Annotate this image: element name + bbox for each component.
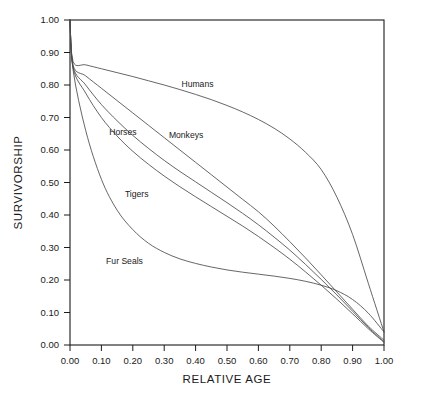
y-tick-label: 0.40 (41, 209, 60, 220)
curve-label-tigers: Tigers (125, 189, 149, 199)
y-tick-label: 0.00 (41, 339, 60, 350)
y-tick-label: 0.70 (41, 112, 60, 123)
y-tick-label: 0.10 (41, 307, 60, 318)
curves-group (70, 20, 384, 342)
series-line-horses (70, 20, 384, 342)
plot-frame (70, 20, 384, 345)
survivorship-chart-figure: 0.000.100.200.300.400.500.600.700.800.90… (0, 0, 424, 398)
y-tick-label: 1.00 (41, 14, 60, 25)
x-tick-label: 0.70 (281, 355, 300, 366)
series-line-tigers (70, 20, 384, 342)
x-tick-label: 0.20 (124, 355, 143, 366)
curve-label-horses: Horses (109, 127, 136, 137)
series-line-fur-seals (70, 20, 384, 332)
x-tick-label: 0.00 (61, 355, 80, 366)
y-tick-label: 0.20 (41, 274, 60, 285)
x-tick-label: 1.00 (375, 355, 394, 366)
y-axis-title: SURVIVORSHIP (12, 136, 24, 230)
series-line-monkeys (70, 20, 384, 340)
curve-label-humans: Humans (181, 79, 213, 89)
x-tick-label: 0.40 (186, 355, 205, 366)
x-tick-label: 0.80 (312, 355, 331, 366)
y-tick-label: 0.30 (41, 242, 60, 253)
x-tick-label: 0.60 (249, 355, 268, 366)
x-tick-label: 0.90 (343, 355, 362, 366)
y-tick-label: 0.90 (41, 47, 60, 58)
y-tick-label: 0.50 (41, 177, 60, 188)
y-axis: 0.000.100.200.300.400.500.600.700.800.90… (41, 14, 71, 350)
y-tick-label: 0.60 (41, 144, 60, 155)
chart-canvas: 0.000.100.200.300.400.500.600.700.800.90… (0, 0, 424, 398)
x-tick-label: 0.30 (155, 355, 174, 366)
curve-label-fur-seals: Fur Seals (106, 256, 143, 266)
x-tick-label: 0.10 (92, 355, 111, 366)
y-tick-label: 0.80 (41, 79, 60, 90)
x-tick-label: 0.50 (218, 355, 237, 366)
curve-label-monkeys: Monkeys (169, 130, 203, 140)
x-axis-title: RELATIVE AGE (183, 373, 272, 385)
series-line-humans (70, 20, 384, 332)
x-axis: 0.000.100.200.300.400.500.600.700.800.90… (61, 345, 394, 366)
